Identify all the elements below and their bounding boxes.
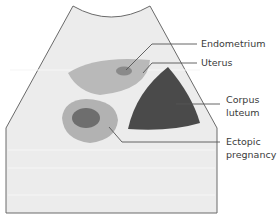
label-ectopic-line2: pregnancy [226, 149, 277, 160]
label-uterus: Uterus [201, 57, 232, 68]
label-endometrium: Endometrium [201, 38, 266, 49]
ectopic-core-shape [72, 108, 100, 128]
ectopic-pregnancy-diagram: Endometrium Uterus Corpus luteum Ectopic… [0, 0, 280, 221]
endometrium-shape [116, 67, 132, 76]
label-corpus-luteum-line2: luteum [226, 107, 260, 118]
label-corpus-luteum-line1: Corpus [226, 94, 259, 105]
label-ectopic-line1: Ectopic [226, 136, 261, 147]
